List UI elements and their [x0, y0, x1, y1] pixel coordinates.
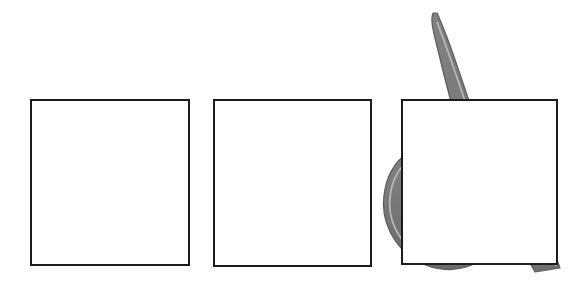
panel-3-group	[384, 13, 560, 272]
panel-2-group	[214, 100, 371, 266]
panel-2-frame	[214, 100, 371, 266]
figure-canvas: undistorted lowercase d with upright ste…	[0, 0, 585, 287]
glyph-distortion-figure	[0, 0, 585, 287]
panel-1-group	[31, 100, 189, 265]
panel-1-frame	[31, 100, 189, 265]
panel-3-frame	[402, 100, 557, 264]
